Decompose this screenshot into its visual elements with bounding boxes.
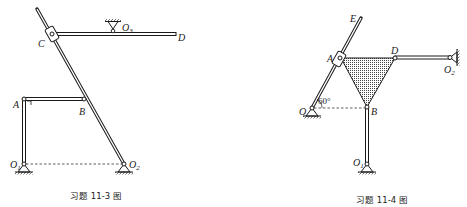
triangle-plate-adb bbox=[341, 58, 395, 107]
caption-11-3: 习题 11-3 图 bbox=[70, 191, 122, 201]
label-o1: O1 bbox=[10, 159, 21, 172]
pin-b bbox=[365, 105, 369, 109]
label-a: A bbox=[12, 99, 20, 110]
pin-a bbox=[22, 97, 26, 101]
label-b: B bbox=[79, 106, 85, 117]
rod-do2 bbox=[395, 56, 450, 59]
label-c: C bbox=[38, 38, 45, 49]
label-d: D bbox=[390, 45, 399, 56]
label-o1: O1 bbox=[353, 157, 364, 170]
pin-d bbox=[393, 56, 397, 60]
figure-11-3: C D O3 A B O1 O2 习题 11-3 图 bbox=[10, 9, 186, 201]
label-o2: O2 bbox=[129, 159, 140, 172]
label-e: E bbox=[349, 13, 356, 24]
right-angle-marker bbox=[27, 101, 31, 105]
pin-c bbox=[50, 32, 54, 36]
label-o2: O2 bbox=[444, 64, 455, 77]
figure-11-4: 60° E A D O2 O B O1 习题 11-4 图 bbox=[299, 13, 460, 205]
label-d: D bbox=[177, 32, 186, 43]
label-a: A bbox=[326, 53, 334, 64]
rod-ao1 bbox=[23, 99, 26, 164]
label-angle: 60° bbox=[318, 96, 331, 106]
diagram-canvas: C D O3 A B O1 O2 习题 11-3 图 bbox=[0, 0, 467, 207]
pin-a bbox=[338, 56, 342, 60]
support-o3 bbox=[105, 19, 121, 33]
rod-bo1 bbox=[366, 107, 369, 164]
pin-b bbox=[82, 97, 86, 101]
label-b: B bbox=[371, 106, 377, 117]
rod-ab bbox=[24, 98, 84, 101]
label-o: O bbox=[299, 106, 306, 117]
caption-11-4: 习题 11-4 图 bbox=[356, 195, 408, 205]
